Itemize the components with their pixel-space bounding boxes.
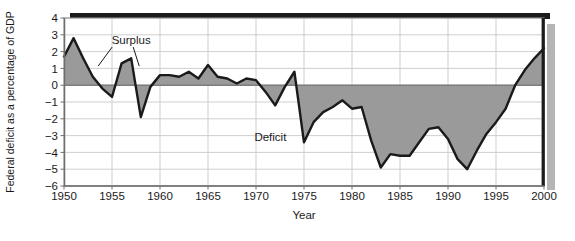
x-tick-label: 1960 [147,190,173,202]
annotation-deficit: Deficit [254,131,287,143]
y-tick-label: −2 [45,113,58,125]
y-tick-label: 1 [52,63,58,75]
y-axis-title: Federal deficit as a percentage of GDP [4,11,16,193]
x-tick-label: 1990 [435,190,461,202]
annotation-surplus: Surplus [112,34,151,46]
x-tick-label: 1965 [195,190,221,202]
x-tick-label: 1975 [291,190,317,202]
y-tick-label: −5 [45,163,58,175]
chart-figure: 43210−1−2−3−4−5−6 1950195519601965197019… [0,0,575,241]
deficit-gdp-area-chart: 43210−1−2−3−4−5−6 1950195519601965197019… [0,0,575,241]
x-tick-label: 1985 [387,190,413,202]
x-tick-label: 1955 [99,190,125,202]
y-tick-label: 4 [52,12,59,24]
y-tick-label: −3 [45,130,58,142]
y-tick-label: −4 [45,147,59,159]
y-tick-label: 3 [52,29,58,41]
x-tick-label: 1950 [51,190,77,202]
y-tick-label: 2 [52,46,58,58]
x-tick-label: 1995 [483,190,509,202]
y-tick-label: 0 [52,79,58,91]
y-tick-label: −1 [45,96,58,108]
x-tick-label: 2000 [531,190,557,202]
x-tick-label: 1980 [339,190,365,202]
x-tick-label: 1970 [243,190,269,202]
x-axis-title: Year [292,209,315,221]
